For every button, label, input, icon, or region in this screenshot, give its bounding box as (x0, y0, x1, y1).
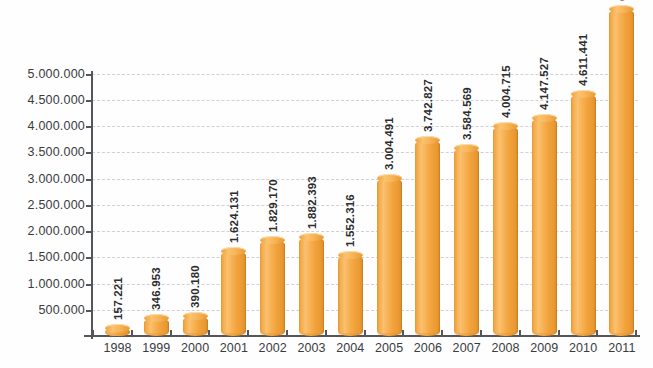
bar-value-label: 3.742.827 (422, 79, 434, 132)
x-axis-tick (635, 330, 637, 337)
y-axis-tick-label: 5.000.000 (28, 67, 85, 81)
x-axis-tick (596, 330, 598, 337)
bar[interactable] (183, 316, 208, 336)
bar-value-label: 346.953 (150, 267, 162, 310)
x-axis-tick (286, 330, 288, 337)
bar-chart: 500.0001.000.0001.500.0002.000.0002.500.… (0, 0, 653, 368)
x-axis-tick (519, 330, 521, 337)
bar-value-label: 6.221.697 (616, 0, 628, 1)
y-axis-tick-label: 2.000.000 (28, 224, 85, 238)
x-axis-tick (441, 330, 443, 337)
x-axis-tick (131, 330, 133, 337)
gridline (92, 100, 638, 101)
bar-value-label: 3.004.491 (383, 117, 395, 170)
x-axis-tick (480, 330, 482, 337)
y-axis-tick-label: 1.000.000 (28, 277, 85, 291)
bar[interactable] (532, 118, 557, 336)
bar[interactable] (221, 251, 246, 336)
x-axis-tick (247, 330, 249, 337)
bar-value-label: 1.882.393 (306, 176, 318, 229)
bar[interactable] (144, 318, 169, 336)
x-axis-category-label: 2011 (599, 341, 645, 355)
y-axis-line (91, 71, 93, 339)
bar[interactable] (105, 328, 130, 336)
x-axis-tick (92, 330, 94, 337)
x-axis-tick (364, 330, 366, 337)
bar-value-label: 1.552.316 (344, 194, 356, 247)
y-axis-tick-label: 3.000.000 (28, 172, 85, 186)
bar-value-label: 157.221 (112, 277, 124, 320)
bar-value-label: 390.180 (189, 265, 201, 308)
bar-value-label: 1.624.131 (228, 190, 240, 243)
bar[interactable] (338, 255, 363, 336)
y-axis-tick-label: 2.500.000 (28, 198, 85, 212)
bar[interactable] (493, 126, 518, 336)
y-axis-tick-label: 1.500.000 (28, 250, 85, 264)
bar-value-label: 1.829.170 (267, 179, 279, 232)
x-axis-tick (558, 330, 560, 337)
bar[interactable] (415, 140, 440, 336)
x-axis-tick (402, 330, 404, 337)
y-axis-tick-label: 3.500.000 (28, 145, 85, 159)
bar[interactable] (377, 178, 402, 336)
bar[interactable] (454, 148, 479, 336)
bar[interactable] (571, 94, 596, 336)
bar-value-label: 3.584.569 (461, 87, 473, 140)
x-axis-tick (208, 330, 210, 337)
y-axis-tick-label: 4.500.000 (28, 93, 85, 107)
bar-value-label: 4.147.527 (538, 57, 550, 110)
bar[interactable] (299, 237, 324, 336)
x-axis-tick (170, 330, 172, 337)
x-axis-tick (325, 330, 327, 337)
y-axis-tick-label: 4.000.000 (28, 119, 85, 133)
bar-value-label: 4.611.441 (577, 34, 589, 86)
bar[interactable] (260, 240, 285, 336)
bar[interactable] (609, 9, 634, 336)
x-axis-line (84, 335, 640, 337)
y-axis-tick-label: 500.000 (38, 303, 85, 317)
gridline (92, 74, 638, 75)
bar-value-label: 4.004.715 (500, 65, 512, 118)
